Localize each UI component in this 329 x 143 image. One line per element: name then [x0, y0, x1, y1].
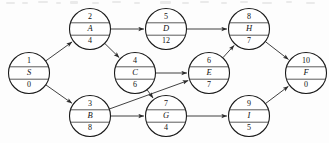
node-B[interactable]: 3B8	[70, 96, 111, 137]
node-H[interactable]: 8H7	[229, 9, 270, 50]
node-duration: 12	[162, 36, 170, 45]
node-number: 1	[27, 56, 31, 65]
node-activity-label: A	[86, 23, 93, 33]
edge-n6-to-n8	[223, 45, 234, 57]
node-duration: 4	[88, 36, 92, 45]
node-C[interactable]: 4C6	[115, 53, 156, 94]
node-duration: 0	[304, 80, 308, 89]
edge-n1-to-n3	[46, 85, 72, 103]
node-activity-label: D	[162, 23, 170, 33]
node-number: 8	[247, 12, 251, 21]
node-duration: 7	[247, 36, 251, 45]
edge-n8-to-n10	[265, 42, 288, 60]
network-diagram: 1S02A43B84C65D126E77G48H79I510F0	[0, 0, 329, 143]
node-D[interactable]: 5D12	[146, 9, 187, 50]
node-F[interactable]: 10F0	[286, 53, 327, 94]
edge-n1-to-n2	[46, 42, 72, 61]
node-activity-label: C	[132, 67, 138, 77]
diagram-canvas: 1S02A43B84C65D126E77G48H79I510F0	[0, 0, 329, 143]
node-layer: 1S02A43B84C65D126E77G48H79I510F0	[9, 9, 327, 137]
node-number: 3	[88, 99, 92, 108]
node-duration: 4	[164, 123, 168, 132]
node-I[interactable]: 9I5	[229, 96, 270, 137]
node-number: 2	[88, 12, 92, 21]
node-number: 7	[164, 99, 168, 108]
node-activity-label: B	[87, 110, 92, 120]
node-duration: 0	[27, 80, 31, 89]
node-activity-label: F	[302, 67, 309, 77]
node-G[interactable]: 7G4	[146, 96, 187, 137]
node-duration: 7	[207, 80, 211, 89]
node-S[interactable]: 1S0	[9, 53, 50, 94]
node-activity-label: E	[205, 67, 212, 77]
node-activity-label: H	[245, 23, 253, 33]
node-activity-label: G	[163, 110, 169, 120]
node-number: 10	[302, 56, 310, 65]
node-number: 9	[247, 99, 251, 108]
node-number: 5	[164, 12, 168, 21]
node-A[interactable]: 2A4	[70, 9, 111, 50]
node-number: 6	[207, 56, 211, 65]
node-number: 4	[133, 56, 137, 65]
node-duration: 5	[247, 123, 251, 132]
node-duration: 8	[88, 123, 92, 132]
node-duration: 6	[133, 80, 137, 89]
edge-n9-to-n10	[266, 86, 289, 103]
node-E[interactable]: 6E7	[189, 53, 230, 94]
edge-n2-to-n4	[105, 44, 119, 58]
